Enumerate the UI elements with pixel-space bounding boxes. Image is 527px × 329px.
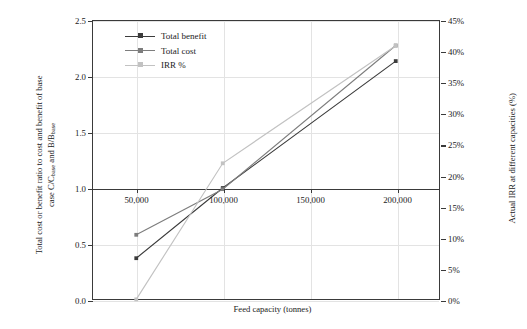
chart-figure: Total cost or benefit ratio to cost and … <box>0 0 527 329</box>
y-tick-right <box>441 270 446 271</box>
legend-swatch-irr <box>125 61 155 70</box>
legend-item-irr: IRR % <box>125 60 207 70</box>
series-line-total-benefit <box>136 61 395 258</box>
legend-label-total-benefit: Total benefit <box>161 31 207 41</box>
series-line-total-cost <box>136 45 395 234</box>
y-tick-left <box>88 245 93 246</box>
y-tick-label-left: 0.0 <box>75 296 86 306</box>
y-tick-right <box>441 208 446 209</box>
series-line-irr <box>136 46 395 300</box>
y-tick-label-right: 10% <box>448 234 464 244</box>
legend-label-total-cost: Total cost <box>161 46 196 56</box>
y-axis-left-title-line2: case C/Cbase and B/Bbase <box>46 25 59 305</box>
y-tick-right <box>441 52 446 53</box>
y-axis-left-title-line2-pre: case C/C <box>47 176 57 207</box>
legend-swatch-total-benefit <box>125 32 155 41</box>
y-tick-label-left: 2.0 <box>75 72 86 82</box>
x-tick <box>137 189 138 193</box>
y-tick-right <box>441 21 446 22</box>
y-tick-label-right: 5% <box>448 265 460 275</box>
y-tick-label-left: 1.0 <box>75 184 86 194</box>
series-marker-irr <box>394 44 398 48</box>
y-axis-left-title-line1: Total cost or benefit ratio to cost and … <box>34 75 44 254</box>
y-tick-label-right: 15% <box>448 203 464 213</box>
x-tick-label: 200,000 <box>383 195 412 205</box>
y-axis-left-title: Total cost or benefit ratio to cost and … <box>33 25 59 305</box>
y-axis-right-title: Actual IRR at different capacities (%) <box>506 18 518 298</box>
legend-item-total-benefit: Total benefit <box>125 31 207 41</box>
y-tick-label-left: 0.5 <box>75 240 86 250</box>
legend-swatch-total-cost <box>125 46 155 55</box>
plot-area: Total benefit Total cost IRR % 0.00.51.0… <box>92 20 440 300</box>
y-tick-left <box>88 301 93 302</box>
y-tick-label-right: 25% <box>448 140 464 150</box>
y-tick-right <box>441 177 446 178</box>
x-axis-title: Feed capacity (tonnes) <box>100 303 445 315</box>
y-tick-right <box>441 301 446 302</box>
x-tick <box>224 189 225 193</box>
series-marker-irr <box>134 298 138 302</box>
y-tick-left <box>88 77 93 78</box>
legend-item-total-cost: Total cost <box>125 46 207 56</box>
x-tick-label: 100,000 <box>209 195 238 205</box>
y-tick-label-left: 1.5 <box>75 128 86 138</box>
y-tick-label-right: 35% <box>448 78 464 88</box>
x-tick <box>398 189 399 193</box>
y-tick-right <box>441 145 446 146</box>
y-tick-right <box>441 114 446 115</box>
y-tick-left <box>88 133 93 134</box>
x-tick <box>311 189 312 193</box>
chart-legend: Total benefit Total cost IRR % <box>121 29 211 72</box>
x-tick-label: 150,000 <box>296 195 325 205</box>
legend-label-irr: IRR % <box>161 60 186 70</box>
series-marker-total-cost <box>134 233 138 237</box>
x-tick-label: 50,000 <box>124 195 148 205</box>
y-gridline-left <box>93 301 439 302</box>
y-axis-left-title-line2-mid: and B/B <box>47 134 57 165</box>
y-tick-label-right: 20% <box>448 172 464 182</box>
series-marker-irr <box>221 161 225 165</box>
y-axis-left-subscript-2: base <box>50 123 57 134</box>
y-tick-label-right: 30% <box>448 109 464 119</box>
y-tick-left <box>88 189 93 190</box>
y-tick-right <box>441 239 446 240</box>
y-tick-label-right: 40% <box>448 47 464 57</box>
y-tick-label-right: 45% <box>448 16 464 26</box>
y-tick-left <box>88 21 93 22</box>
series-marker-total-benefit <box>394 59 398 63</box>
y-axis-left-subscript-1: base <box>50 165 57 176</box>
y-tick-right <box>441 83 446 84</box>
y-tick-label-left: 2.5 <box>75 16 86 26</box>
y-tick-label-right: 0% <box>448 296 460 306</box>
series-marker-total-benefit <box>134 256 138 260</box>
